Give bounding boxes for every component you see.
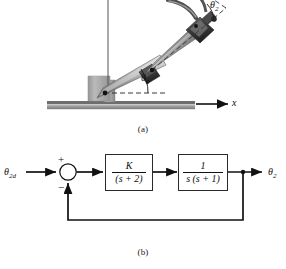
controller-block[interactable]: K (s + 2) xyxy=(105,154,153,191)
output-signal-label: θ2 xyxy=(268,166,276,180)
theta2-label: θ2 xyxy=(210,0,218,13)
wrist-pivot-dot xyxy=(194,24,198,28)
robot-arm-illustration: θ1 θ2 x xyxy=(0,0,286,122)
controller-denominator: (s + 2) xyxy=(112,172,145,185)
plus-sign: + xyxy=(58,154,64,165)
summing-junction-circle xyxy=(60,164,76,180)
figure-container: θ1 θ2 x (a) xyxy=(0,0,286,269)
controller-numerator: K xyxy=(123,161,136,173)
robot-arm-svg xyxy=(0,0,286,122)
input-signal-label: θ2d xyxy=(4,166,16,180)
joint-1-pivot-dot xyxy=(103,91,108,96)
ground-slab xyxy=(47,101,195,109)
controller-transfer-function: K (s + 2) xyxy=(112,161,145,185)
plant-block[interactable]: 1 s (s + 1) xyxy=(178,154,228,191)
minus-sign: − xyxy=(58,182,64,193)
x-axis-label: x xyxy=(232,97,236,108)
plant-numerator: 1 xyxy=(197,161,208,173)
caption-a: (a) xyxy=(0,124,286,134)
tool-arm-top xyxy=(168,0,206,18)
theta1-label: θ1 xyxy=(141,72,149,86)
block-diagram: θ2d θ2 + − K (s + 2) 1 s (s + 1) xyxy=(0,146,286,246)
plant-denominator: s (s + 1) xyxy=(183,172,223,185)
joint-2-pivot-dot xyxy=(150,68,154,72)
caption-b: (b) xyxy=(0,247,286,257)
plant-transfer-function: 1 s (s + 1) xyxy=(183,161,223,185)
